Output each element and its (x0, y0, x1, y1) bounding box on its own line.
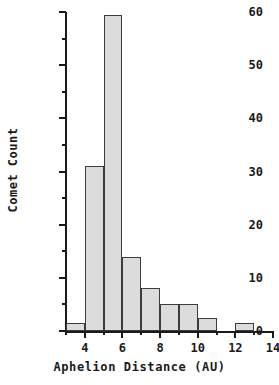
histogram-bar (198, 318, 217, 331)
x-axis-minor-tick (216, 331, 218, 335)
y-axis-tick-label: 10 (249, 271, 263, 285)
x-axis-tick (197, 331, 199, 338)
x-axis-line (65, 331, 274, 333)
x-axis-minor-tick (253, 331, 255, 335)
y-axis-tick (59, 117, 66, 119)
y-axis-tick-label: 0 (256, 324, 263, 338)
y-axis-minor-tick (62, 38, 66, 40)
y-axis-tick-label: 30 (249, 165, 263, 179)
x-axis-tick-label: 4 (81, 341, 88, 355)
y-axis-tick (59, 224, 66, 226)
y-axis-minor-tick (62, 91, 66, 93)
x-axis-tick (234, 331, 236, 338)
histogram-bar (122, 257, 141, 331)
x-axis-tick-label: 10 (190, 341, 204, 355)
histogram-bar (141, 288, 160, 331)
x-axis-minor-tick (103, 331, 105, 335)
x-axis-label: Aphelion Distance (AU) (0, 360, 279, 374)
histogram-bar (160, 304, 179, 331)
x-axis-tick-label: 8 (156, 341, 163, 355)
histogram-bar (85, 166, 104, 331)
y-axis-label-container: Comet Count (0, 0, 26, 340)
x-axis-tick-label: 12 (228, 341, 242, 355)
histogram-bar (104, 15, 123, 331)
histogram-bar (66, 323, 85, 331)
x-axis-minor-tick (140, 331, 142, 335)
y-axis-tick-label: 50 (249, 58, 263, 72)
y-axis-tick-label: 60 (249, 5, 263, 19)
y-axis-tick-label: 40 (249, 111, 263, 125)
plot-area: 0102030405060 468101214 (66, 12, 273, 331)
y-axis-minor-tick (62, 303, 66, 305)
x-axis-tick (159, 331, 161, 338)
x-axis-tick-label: 14 (266, 341, 279, 355)
x-axis-tick (84, 331, 86, 338)
y-axis-tick (59, 277, 66, 279)
y-axis-minor-tick (62, 144, 66, 146)
y-axis-tick (59, 11, 66, 13)
y-axis-tick-label: 20 (249, 218, 263, 232)
x-axis-minor-tick (65, 331, 67, 335)
histogram-bar (179, 304, 198, 331)
histogram-bar (235, 323, 254, 331)
x-axis-tick (121, 331, 123, 338)
y-axis-tick (59, 171, 66, 173)
x-axis-tick (272, 331, 274, 338)
y-axis-minor-tick (62, 197, 66, 199)
x-axis-minor-tick (178, 331, 180, 335)
y-axis-tick (59, 64, 66, 66)
y-axis-label: Comet Count (6, 128, 20, 213)
y-axis-minor-tick (62, 250, 66, 252)
histogram-figure: Comet Count 0102030405060 468101214 Aphe… (0, 0, 279, 385)
x-axis-tick-label: 6 (119, 341, 126, 355)
